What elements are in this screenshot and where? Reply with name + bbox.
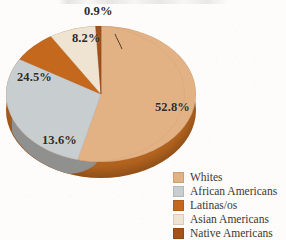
legend-swatch-asian-americans — [173, 214, 184, 225]
legend-label-latinas-os: Latinas/os — [190, 199, 237, 212]
legend-item-asian-americans: Asian Americans — [173, 212, 286, 226]
slice-label-latinas-os: 24.5% — [17, 70, 52, 85]
pie-top-face — [6, 26, 196, 162]
slice-label-native-americans: 0.9% — [84, 4, 113, 19]
legend-label-african-americans: African Americans — [190, 185, 277, 198]
legend-swatch-native-americans — [173, 228, 184, 239]
legend-item-african-americans: African Americans — [173, 184, 286, 198]
slice-label-whites: 52.8% — [155, 100, 190, 115]
legend-swatch-african-americans — [173, 186, 184, 197]
legend-item-latinas-os: Latinas/os — [173, 198, 286, 212]
legend-swatch-latinas-os — [173, 200, 184, 211]
chart-legend: Whites African Americans Latinas/os Asia… — [173, 170, 286, 240]
slice-label-african-americans: 13.6% — [42, 133, 77, 148]
pie-slices-svg — [6, 26, 196, 162]
legend-label-asian-americans: Asian Americans — [190, 213, 269, 226]
pie-chart-figure: 52.8% 13.6% 24.5% 8.2% 0.9% Whites Afric… — [0, 0, 286, 240]
legend-label-native-americans: Native Americans — [190, 227, 273, 240]
legend-item-native-americans: Native Americans — [173, 226, 286, 240]
slice-label-asian-americans: 8.2% — [72, 31, 101, 46]
legend-item-whites: Whites — [173, 170, 286, 184]
legend-label-whites: Whites — [190, 171, 223, 184]
legend-swatch-whites — [173, 172, 184, 183]
